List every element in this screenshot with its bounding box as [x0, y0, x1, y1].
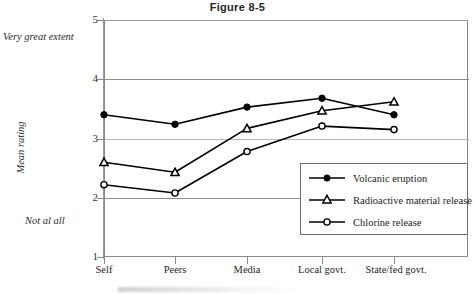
y-tick-label-1: 1 — [72, 250, 98, 262]
legend-key-open-circle-icon — [307, 215, 347, 229]
legend-key-filled-circle-icon — [307, 171, 347, 185]
y-anchor-high-label: Very great extent — [3, 31, 74, 42]
y-tick-label-2: 2 — [72, 191, 98, 203]
y-tick-1 — [97, 257, 104, 258]
legend: Volcanic eruption Radioactive material r… — [300, 163, 468, 235]
figure-title: Figure 8-5 — [0, 1, 475, 13]
x-tick-label-state-fed-govt: State/fed govt. — [350, 264, 442, 275]
x-tick-label-media: Media — [217, 264, 277, 275]
legend-item-radioactive-material-release[interactable]: Radioactive material release — [307, 191, 472, 209]
legend-label-radioactive-material-release: Radioactive material release — [353, 195, 472, 206]
x-tick-label-self: Self — [74, 264, 134, 275]
x-tick-state-fed-govt — [394, 257, 395, 264]
legend-key-open-triangle-icon — [307, 193, 347, 207]
y-tick-label-3: 3 — [72, 132, 98, 144]
y-tick-label-5: 5 — [72, 13, 98, 25]
legend-label-chlorine-release: Chlorine release — [353, 217, 422, 228]
x-tick-self — [104, 257, 105, 264]
x-tick-local-govt — [322, 257, 323, 264]
y-tick-2 — [97, 198, 104, 199]
gridline-3 — [105, 139, 469, 140]
legend-item-volcanic-eruption[interactable]: Volcanic eruption — [307, 169, 427, 187]
legend-item-chlorine-release[interactable]: Chlorine release — [307, 213, 422, 231]
y-tick-4 — [97, 79, 104, 80]
x-tick-peers — [175, 257, 176, 264]
gridline-4 — [105, 79, 469, 80]
x-tick-label-local-govt: Local govt. — [284, 264, 360, 275]
scan-artifact — [118, 287, 298, 292]
legend-label-volcanic-eruption: Volcanic eruption — [353, 173, 427, 184]
y-anchor-low-label: Not al all — [25, 215, 65, 226]
x-tick-media — [247, 257, 248, 264]
x-tick-label-peers: Peers — [145, 264, 205, 275]
y-tick-label-4: 4 — [72, 72, 98, 84]
figure-container: Figure 8-5 Very great extent Not al all … — [0, 0, 475, 294]
y-tick-3 — [97, 139, 104, 140]
y-tick-5 — [97, 20, 104, 21]
y-axis-title: Mean rating — [15, 110, 26, 186]
